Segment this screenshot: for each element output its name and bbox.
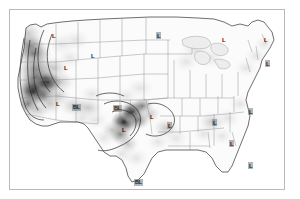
contour-label-l: L <box>156 32 161 39</box>
contour-label-bl: BL <box>113 105 122 112</box>
contour-label-l: L <box>91 53 94 59</box>
contour-label-l: L <box>222 37 225 43</box>
contour-map: L L L L BL BL L L L BL L L L L L L L L <box>0 0 300 199</box>
contour-label-l: L <box>265 60 270 67</box>
contour-label-bl: BL <box>72 104 81 111</box>
contour-label-l: L <box>167 122 172 129</box>
contour-label-l: L <box>122 127 125 133</box>
contour-label-l: L <box>248 108 253 115</box>
contour-label-l: L <box>64 65 67 71</box>
contour-label-l: L <box>56 101 59 107</box>
contour-label-l: L <box>52 33 55 39</box>
contour-label-l: L <box>150 114 153 120</box>
contour-label-bl: BL <box>134 179 143 186</box>
contour-label-l: L <box>229 140 234 147</box>
contour-label-l: L <box>212 119 217 126</box>
contour-label-l: L <box>264 37 267 43</box>
map-svg <box>0 0 300 199</box>
figure-canvas: L L L L BL BL L L L BL L L L L L L L L <box>0 0 300 199</box>
contour-label-l: L <box>248 162 253 169</box>
